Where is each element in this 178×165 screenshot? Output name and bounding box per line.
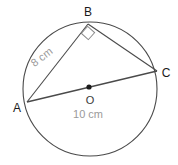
vertex-label-b: B xyxy=(84,5,92,19)
segment-bc xyxy=(88,24,157,71)
right-angle-marker-icon xyxy=(81,26,94,39)
vertex-label-c: C xyxy=(162,66,171,80)
vertex-label-a: A xyxy=(13,101,21,115)
geometry-diagram: A B C O 8 cm 10 cm xyxy=(0,0,178,165)
center-label-o: O xyxy=(86,94,95,106)
geometry-canvas: A B C O 8 cm 10 cm xyxy=(0,0,178,165)
measure-label-side-ab: 8 cm xyxy=(28,45,54,69)
measure-label-diameter-ac: 10 cm xyxy=(73,108,103,120)
center-point-dot-icon xyxy=(86,84,91,89)
